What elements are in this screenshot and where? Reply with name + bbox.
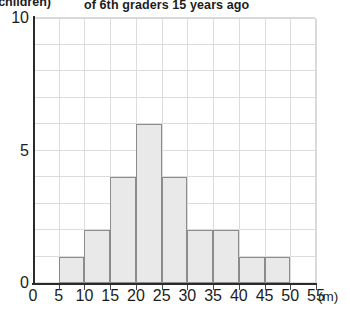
- x-axis-tick: [84, 285, 85, 290]
- histogram-bar: [59, 257, 85, 284]
- x-tick-label: 45: [256, 288, 274, 304]
- x-tick-label: 30: [178, 288, 196, 304]
- histogram-bar: [110, 177, 136, 283]
- gridline-horizontal: [33, 17, 315, 18]
- histogram-bar: [187, 230, 213, 283]
- histogram-bar: [265, 257, 291, 284]
- bars-group: [33, 19, 315, 283]
- x-axis-line: [32, 283, 317, 285]
- x-tick-label: 15: [101, 288, 119, 304]
- plot-area: [33, 18, 316, 283]
- y-tick-label: 5: [20, 143, 29, 159]
- histogram-bar: [213, 230, 239, 283]
- y-tick-label: 10: [11, 10, 29, 26]
- chart-title: of 6th graders 15 years ago: [84, 0, 249, 12]
- gridline-vertical: [316, 19, 317, 283]
- histogram-bar: [239, 257, 265, 284]
- x-axis-tick: [290, 285, 291, 290]
- x-axis-tick: [265, 285, 266, 290]
- histogram-bar: [84, 230, 110, 283]
- x-tick-label: 25: [153, 288, 171, 304]
- x-tick-label: 35: [204, 288, 222, 304]
- x-tick-label: 5: [54, 288, 63, 304]
- histogram-bar: [136, 124, 162, 283]
- x-axis-tick: [59, 285, 60, 290]
- x-axis-tick: [239, 285, 240, 290]
- x-axis-tick: [316, 285, 317, 290]
- x-tick-label: 40: [230, 288, 248, 304]
- x-tick-label: 50: [281, 288, 299, 304]
- x-axis-tick: [162, 285, 163, 290]
- x-axis-unit-label: (m): [318, 289, 338, 304]
- x-tick-label: 20: [127, 288, 145, 304]
- x-axis-tick: [136, 285, 137, 290]
- x-tick-label: 10: [76, 288, 94, 304]
- x-axis-tick: [187, 285, 188, 290]
- x-axis-tick: [213, 285, 214, 290]
- histogram-bar: [162, 177, 188, 283]
- x-tick-label: 0: [29, 288, 38, 304]
- x-axis-tick: [110, 285, 111, 290]
- y-tick-labels: 0510: [0, 0, 29, 309]
- y-axis-line: [33, 16, 35, 285]
- histogram-figure: (children) of 6th graders 15 years ago 0…: [0, 0, 350, 309]
